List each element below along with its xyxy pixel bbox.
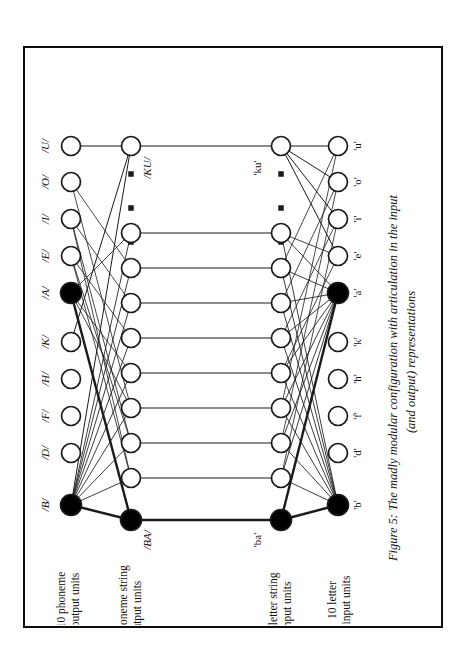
unit-node-phoneme_output-9[interactable] [62,137,81,156]
unit-node-letter_input-8[interactable] [329,173,348,192]
unit-label-letter-7: 'i' [351,215,363,222]
unit-node-letter_string_input-7[interactable] [272,259,291,278]
unit-node-phoneme_output-2[interactable] [62,407,81,426]
unit-node-phoneme_string_output-3[interactable] [122,399,141,418]
unit-node-phoneme_output-5[interactable] [61,283,82,304]
unit-label-phoneme-9: /U/ [39,138,51,154]
figure-page: /B//D//F//H//K//A//E//I//O//U/'b''d''f''… [0,0,467,669]
unit-node-letter_input-3[interactable] [329,370,348,389]
unit-node-phoneme_string_output-9[interactable] [122,137,141,156]
unit-node-letter_input-4[interactable] [329,333,348,352]
unit-label-phoneme-4: /K/ [39,334,51,349]
unit-node-phoneme_string_output-5[interactable] [122,329,141,348]
network-diagram: /B//D//F//H//K//A//E//I//O//U/'b''d''f''… [25,48,440,625]
unit-node-letter_string_input-2[interactable] [272,434,291,453]
unit-node-letter_input-2[interactable] [329,407,348,426]
unit-label-letter-4: 'k' [351,337,363,346]
unit-node-phoneme_output-8[interactable] [62,173,81,192]
unit-label-phoneme-3: /H/ [39,371,51,387]
unit-node-phoneme_output-4[interactable] [62,333,81,352]
unit-label-letter-string-first: 'ba' [251,533,263,547]
unit-label-letter-string-last: 'ku' [251,161,263,176]
unit-node-letter_string_input-9[interactable] [272,137,291,156]
figure-caption: Figure 5: The madly modular configuratio… [386,194,418,562]
unit-node-letter_string_input-5[interactable] [272,329,291,348]
group-label-letter-input-line2: input units [340,575,353,624]
ellipsis-dot [128,205,134,211]
unit-label-phoneme-1: /D/ [39,445,51,461]
unit-node-letter_input-5[interactable] [328,283,349,304]
unit-label-phoneme-7: /I/ [39,213,51,225]
unit-label-letter-2: 'f' [351,412,363,420]
unit-label-phoneme-6: /E/ [39,249,51,264]
unit-label-phoneme-2: /F/ [39,409,51,424]
unit-node-phoneme_output-0[interactable] [61,495,82,516]
unit-node-phoneme_string_output-2[interactable] [122,434,141,453]
figure-caption-line2: (and output) representations [404,291,418,433]
unit-node-letter_string_input-4[interactable] [272,364,291,383]
ellipsis-dot [128,171,134,177]
unit-node-phoneme_string_output-7[interactable] [122,259,141,278]
group-label-letter-string-input-line2: input units [281,581,294,625]
unit-label-letter-9: 'u' [351,141,363,150]
unit-label-letter-5: 'a' [351,289,363,298]
unit-node-phoneme_string_output-6[interactable] [122,294,141,313]
unit-label-phoneme-string-first: /BA/ [141,529,153,550]
unit-node-letter_input-0[interactable] [328,495,349,516]
unit-node-letter_input-7[interactable] [329,210,348,229]
unit-node-letter_string_input-3[interactable] [272,399,291,418]
unit-label-letter-1: 'd' [351,448,363,457]
group-label-phoneme-string-output-line2: output units [131,580,144,625]
unit-node-letter_string_input-6[interactable] [272,294,291,313]
group-label-letter-input-line1: 10 letter [326,581,338,619]
unit-node-phoneme_string_output-1[interactable] [122,469,141,488]
group-label-letter-string-input-line1: 25 letter string [267,572,280,625]
unit-node-phoneme_string_output-8[interactable] [122,224,141,243]
output-fan-edge [71,146,131,342]
output-fan-edge [71,293,131,408]
input-fan-edge [281,293,338,408]
ellipsis-dot [278,205,284,211]
unit-node-letter_string_input-0[interactable] [271,510,292,531]
unit-label-letter-3: 'h' [351,374,363,383]
figure-caption-line1: Figure 5: The madly modular configuratio… [386,194,400,562]
unit-label-phoneme-0: /B/ [39,498,51,513]
figure-border-box: /B//D//F//H//K//A//E//I//O//U/'b''d''f''… [23,46,443,628]
unit-node-letter_input-6[interactable] [329,247,348,266]
group-label-phoneme-output-line1: 10 phoneme [55,572,68,625]
unit-label-phoneme-8: /O/ [39,174,51,190]
group-label-phoneme-string-output-line1: 25 phoneme string [117,565,130,625]
unit-label-phoneme-string-last: /KU/ [141,156,153,179]
unit-node-phoneme_output-3[interactable] [62,370,81,389]
unit-node-letter_string_input-1[interactable] [272,469,291,488]
unit-label-letter-6: 'e' [351,252,363,261]
unit-node-letter_input-9[interactable] [329,137,348,156]
unit-node-phoneme_string_output-0[interactable] [121,510,142,531]
unit-label-letter-8: 'o' [351,177,363,186]
unit-node-phoneme_output-1[interactable] [62,444,81,463]
unit-node-phoneme_output-6[interactable] [62,247,81,266]
unit-label-letter-0: 'b' [351,500,363,509]
unit-node-phoneme_output-7[interactable] [62,210,81,229]
ellipsis-dot [278,171,284,177]
unit-node-phoneme_string_output-4[interactable] [122,364,141,383]
unit-label-phoneme-5: /A/ [39,286,51,301]
unit-node-letter_string_input-8[interactable] [272,224,291,243]
unit-node-letter_input-1[interactable] [329,444,348,463]
group-label-phoneme-output-line2: output units [69,572,82,625]
